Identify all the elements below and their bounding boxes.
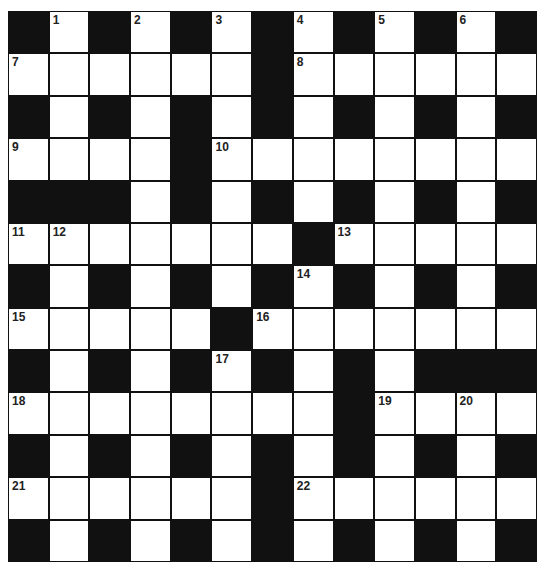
crossword-cell[interactable] <box>212 393 251 433</box>
crossword-cell[interactable]: 15 <box>9 309 48 349</box>
crossword-cell[interactable] <box>335 139 374 179</box>
crossword-cell[interactable]: 22 <box>294 478 333 518</box>
crossword-cell[interactable]: 21 <box>9 478 48 518</box>
crossword-cell[interactable] <box>294 393 333 433</box>
crossword-cell[interactable] <box>131 521 170 561</box>
crossword-cell[interactable]: 19 <box>375 393 414 433</box>
crossword-cell[interactable] <box>90 224 129 264</box>
crossword-cell[interactable] <box>131 54 170 94</box>
crossword-cell[interactable]: 11 <box>9 224 48 264</box>
crossword-cell[interactable] <box>172 224 211 264</box>
crossword-cell[interactable] <box>457 521 496 561</box>
crossword-cell[interactable] <box>335 478 374 518</box>
crossword-cell[interactable]: 6 <box>457 12 496 52</box>
crossword-cell[interactable] <box>212 436 251 476</box>
crossword-cell[interactable] <box>497 224 536 264</box>
crossword-cell[interactable] <box>457 309 496 349</box>
crossword-cell[interactable] <box>497 54 536 94</box>
crossword-cell[interactable] <box>172 393 211 433</box>
crossword-cell[interactable] <box>131 351 170 391</box>
crossword-cell[interactable] <box>375 224 414 264</box>
crossword-cell[interactable] <box>375 436 414 476</box>
crossword-cell[interactable] <box>50 309 89 349</box>
crossword-cell[interactable] <box>375 478 414 518</box>
crossword-cell[interactable] <box>50 478 89 518</box>
crossword-cell[interactable]: 14 <box>294 266 333 306</box>
crossword-cell[interactable] <box>212 478 251 518</box>
crossword-cell[interactable]: 10 <box>212 139 251 179</box>
crossword-cell[interactable] <box>131 139 170 179</box>
crossword-cell[interactable] <box>375 97 414 137</box>
crossword-cell[interactable] <box>375 54 414 94</box>
crossword-cell[interactable] <box>375 351 414 391</box>
crossword-cell[interactable] <box>90 393 129 433</box>
crossword-cell[interactable] <box>457 436 496 476</box>
crossword-cell[interactable] <box>212 54 251 94</box>
crossword-cell[interactable] <box>253 393 292 433</box>
crossword-cell[interactable] <box>90 139 129 179</box>
crossword-cell[interactable] <box>131 266 170 306</box>
crossword-cell[interactable] <box>131 97 170 137</box>
crossword-cell[interactable] <box>294 309 333 349</box>
crossword-cell[interactable] <box>294 139 333 179</box>
crossword-cell[interactable] <box>50 436 89 476</box>
crossword-cell[interactable] <box>457 182 496 222</box>
crossword-cell[interactable]: 1 <box>50 12 89 52</box>
crossword-cell[interactable] <box>497 139 536 179</box>
crossword-cell[interactable] <box>131 478 170 518</box>
crossword-cell[interactable] <box>335 54 374 94</box>
crossword-cell[interactable] <box>375 266 414 306</box>
crossword-cell[interactable] <box>172 54 211 94</box>
crossword-cell[interactable] <box>50 521 89 561</box>
crossword-cell[interactable] <box>497 309 536 349</box>
crossword-cell[interactable] <box>416 224 455 264</box>
crossword-cell[interactable] <box>212 97 251 137</box>
crossword-cell[interactable] <box>375 182 414 222</box>
crossword-cell[interactable]: 16 <box>253 309 292 349</box>
crossword-cell[interactable] <box>131 309 170 349</box>
crossword-cell[interactable] <box>253 224 292 264</box>
crossword-cell[interactable] <box>212 224 251 264</box>
crossword-cell[interactable]: 7 <box>9 54 48 94</box>
crossword-cell[interactable] <box>212 266 251 306</box>
crossword-cell[interactable]: 2 <box>131 12 170 52</box>
crossword-cell[interactable] <box>172 478 211 518</box>
crossword-cell[interactable]: 4 <box>294 12 333 52</box>
crossword-cell[interactable] <box>50 393 89 433</box>
crossword-cell[interactable] <box>50 266 89 306</box>
crossword-cell[interactable] <box>131 393 170 433</box>
crossword-cell[interactable] <box>416 478 455 518</box>
crossword-cell[interactable]: 8 <box>294 54 333 94</box>
crossword-cell[interactable] <box>50 139 89 179</box>
crossword-cell[interactable] <box>131 182 170 222</box>
crossword-cell[interactable] <box>294 351 333 391</box>
crossword-cell[interactable] <box>416 309 455 349</box>
crossword-cell[interactable] <box>253 139 292 179</box>
crossword-cell[interactable] <box>375 139 414 179</box>
crossword-cell[interactable] <box>375 521 414 561</box>
crossword-cell[interactable] <box>457 224 496 264</box>
crossword-cell[interactable] <box>457 266 496 306</box>
crossword-cell[interactable] <box>335 309 374 349</box>
crossword-cell[interactable] <box>131 224 170 264</box>
crossword-cell[interactable] <box>416 54 455 94</box>
crossword-cell[interactable] <box>90 478 129 518</box>
crossword-cell[interactable] <box>294 521 333 561</box>
crossword-cell[interactable] <box>90 309 129 349</box>
crossword-cell[interactable] <box>294 182 333 222</box>
crossword-cell[interactable] <box>497 478 536 518</box>
crossword-cell[interactable] <box>172 309 211 349</box>
crossword-cell[interactable] <box>294 97 333 137</box>
crossword-cell[interactable] <box>50 97 89 137</box>
crossword-cell[interactable] <box>50 54 89 94</box>
crossword-cell[interactable] <box>212 521 251 561</box>
crossword-cell[interactable]: 9 <box>9 139 48 179</box>
crossword-cell[interactable]: 3 <box>212 12 251 52</box>
crossword-cell[interactable] <box>131 436 170 476</box>
crossword-cell[interactable] <box>90 54 129 94</box>
crossword-cell[interactable]: 17 <box>212 351 251 391</box>
crossword-cell[interactable] <box>375 309 414 349</box>
crossword-cell[interactable]: 20 <box>457 393 496 433</box>
crossword-cell[interactable] <box>212 182 251 222</box>
crossword-cell[interactable] <box>457 139 496 179</box>
